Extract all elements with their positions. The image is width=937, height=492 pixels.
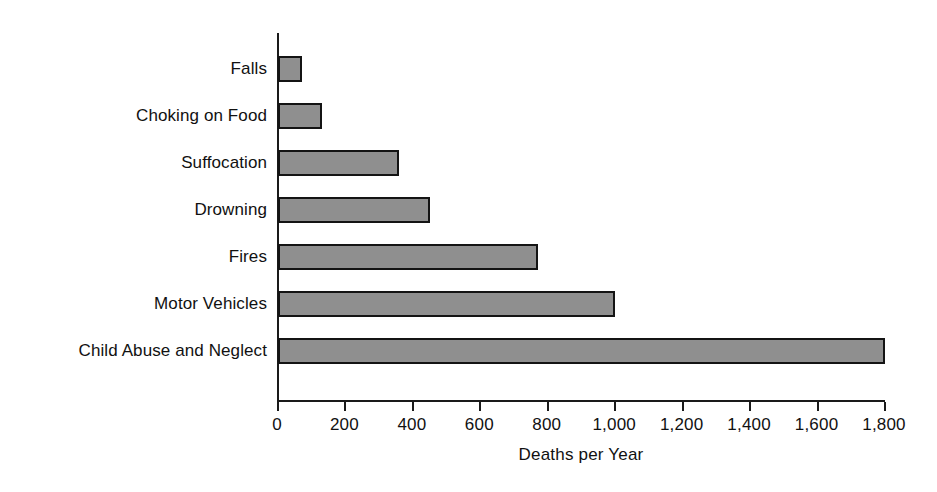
category-label: Motor Vehicles	[154, 294, 267, 314]
x-axis-tick	[277, 402, 279, 411]
x-axis-title: Deaths per Year	[277, 445, 885, 465]
x-axis-tick	[614, 402, 616, 411]
x-axis-tick	[749, 402, 751, 411]
category-label: Drowning	[194, 200, 267, 220]
x-axis-tick-label: 800	[532, 415, 561, 435]
x-axis-tick-label: 200	[330, 415, 359, 435]
x-axis-tick-label: 1,400	[727, 415, 771, 435]
category-label: Child Abuse and Neglect	[79, 341, 267, 361]
x-axis-tick	[817, 402, 819, 411]
plot-area: 02004006008001,0001,2001,4001,6001,800	[277, 33, 885, 400]
x-axis-tick-label: 1,200	[660, 415, 704, 435]
x-axis-tick-label: 600	[465, 415, 494, 435]
category-label: Falls	[231, 59, 267, 79]
x-axis-tick-label: 1,800	[862, 415, 906, 435]
x-axis-tick	[344, 402, 346, 411]
bar	[278, 244, 538, 270]
bar	[278, 291, 615, 317]
category-label: Fires	[229, 247, 267, 267]
x-axis-tick	[884, 402, 886, 411]
x-axis-tick-label: 0	[272, 415, 282, 435]
bar	[278, 338, 885, 364]
x-axis-line	[277, 400, 885, 402]
x-axis-tick-label: 1,000	[592, 415, 636, 435]
x-axis-tick	[682, 402, 684, 411]
x-axis-tick	[547, 402, 549, 411]
x-axis-tick-label: 1,600	[795, 415, 839, 435]
bar	[278, 103, 322, 129]
x-axis-tick	[412, 402, 414, 411]
x-axis-tick-label: 400	[397, 415, 426, 435]
bar	[278, 197, 430, 223]
category-axis-labels: FallsChoking on FoodSuffocationDrowningF…	[0, 33, 267, 400]
bar	[278, 150, 399, 176]
category-label: Suffocation	[181, 153, 267, 173]
bar	[278, 56, 302, 82]
category-label: Choking on Food	[136, 106, 267, 126]
bar-chart: FallsChoking on FoodSuffocationDrowningF…	[0, 0, 937, 492]
x-axis-tick	[479, 402, 481, 411]
